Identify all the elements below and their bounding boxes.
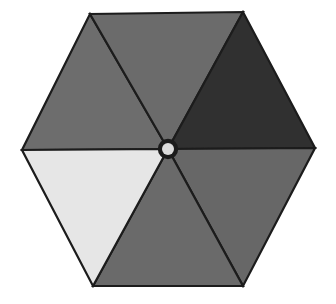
center-hub [159,140,177,158]
image-canvas [0,0,336,304]
umbrella-illustration [0,0,336,304]
hub-inner-cap-icon [162,143,174,155]
